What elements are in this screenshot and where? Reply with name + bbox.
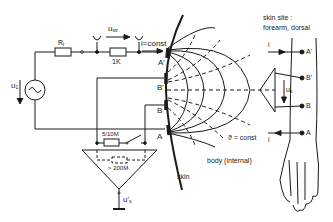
amplifier-impedance-label: > 200M xyxy=(108,165,128,171)
skin-label: skin xyxy=(177,173,189,180)
skin-site-label: skin site : xyxy=(263,14,292,21)
skin-line xyxy=(166,15,183,190)
series-resistor-label: 1K xyxy=(112,58,121,65)
body-label: body (internal) xyxy=(207,157,252,164)
arm-current-out-label: i xyxy=(268,136,270,143)
arm-current-in-label: i xyxy=(268,41,270,48)
current-flow-lines xyxy=(168,28,250,147)
sine-icon xyxy=(29,88,41,93)
current-label: i=const xyxy=(141,40,167,48)
output-voltage-label: u's xyxy=(123,196,131,204)
electrode-a-prime xyxy=(167,48,168,58)
internal-resistor-label: Ri xyxy=(58,39,64,47)
equipotential-label: ϑ = const xyxy=(228,134,257,141)
electrode-b-prime-label: B' xyxy=(157,84,164,92)
arm-a-prime-label: A' xyxy=(306,48,312,55)
internal-resistor xyxy=(55,48,71,56)
forearm-label: forearm, dorsal xyxy=(263,24,310,31)
electrode-a-prime-label: A' xyxy=(158,59,165,67)
series-resistor xyxy=(110,48,126,56)
switch-icon xyxy=(128,135,141,142)
measurement-diagram xyxy=(0,0,333,222)
input-resistor xyxy=(104,139,119,146)
electrode-b-label: B xyxy=(157,107,162,115)
probe-left-icon xyxy=(93,36,101,40)
electrode-a-label: A xyxy=(157,133,162,141)
arm-b-prime-label: B' xyxy=(306,74,312,81)
source-voltage-label: u1 xyxy=(11,82,18,90)
stray-voltage-label: ustr xyxy=(108,25,118,33)
arm-voltage-label: us xyxy=(286,86,292,94)
arm-b-label: B xyxy=(306,102,311,109)
arm-a-label: A xyxy=(306,129,311,136)
arm-drawing xyxy=(280,38,319,211)
input-resistor-label: 5/10M xyxy=(102,131,119,137)
